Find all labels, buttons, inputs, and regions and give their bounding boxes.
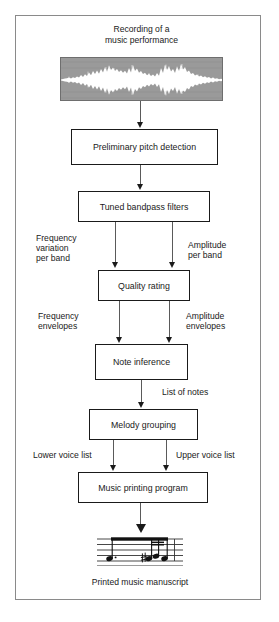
box-music-printing-program[interactable]: Music printing program [78, 472, 208, 503]
box-tuned-bandpass-filters[interactable]: Tuned bandpass filters [78, 191, 210, 222]
edge-label-upper-voice-list: Upper voice list [176, 450, 261, 461]
edge-label-frequency-envelopes-line1: Frequency [38, 311, 118, 322]
box-label-music-printing-program: Music printing program [98, 483, 187, 493]
music-manuscript-excerpt [95, 536, 185, 569]
connector-note-inference-to-melody [141, 380, 142, 403]
recording-caption-line1: Recording of a [60, 24, 223, 35]
arrowhead-quality-to-note-right [166, 337, 172, 343]
connector-melody-to-printing-left [113, 440, 114, 466]
box-melody-grouping[interactable]: Melody grouping [89, 409, 198, 440]
arrowhead-note-inference-to-melody [138, 402, 144, 408]
box-label-preliminary-pitch-detection: Preliminary pitch detection [93, 142, 196, 152]
figure-frame [15, 15, 261, 600]
waveform-svg [61, 58, 223, 101]
arrowhead-melody-to-printing-left [110, 465, 116, 471]
connector-bandpass-to-quality-right [172, 222, 173, 263]
music-staff-svg [95, 536, 185, 569]
recording-caption-line2: music performance [60, 35, 223, 46]
arrowhead-waveform-to-pitch-detection [137, 122, 143, 128]
box-label-note-inference: Note inference [113, 357, 170, 367]
edge-label-amplitude-envelopes-line2: envelopes [186, 321, 266, 332]
figure-canvas: Recording of a music performance [0, 0, 279, 622]
manuscript-caption: Printed music manuscript [50, 577, 230, 588]
arrowhead-melody-to-printing-right [163, 465, 169, 471]
waveform-image [60, 57, 223, 101]
arrowhead-bandpass-to-quality-right [169, 262, 175, 268]
box-note-inference[interactable]: Note inference [95, 344, 188, 380]
edge-label-frequency-variation-line1: Frequency [36, 233, 116, 244]
arrowhead-quality-to-note-left [116, 337, 122, 343]
edge-label-frequency-variation-line3: per band [36, 253, 116, 264]
edge-label-frequency-variation-line2: variation [36, 243, 116, 254]
box-quality-rating[interactable]: Quality rating [98, 270, 190, 301]
edge-label-frequency-envelopes-line2: envelopes [38, 321, 118, 332]
box-label-quality-rating: Quality rating [118, 281, 170, 291]
arrowhead-pitch-detection-to-bandpass [137, 184, 143, 190]
connector-quality-to-note-right [169, 301, 170, 338]
edge-label-amplitude-envelopes-line1: Amplitude [186, 311, 266, 322]
connector-pitch-detection-to-bandpass [140, 165, 141, 185]
connector-waveform-to-pitch-detection [140, 101, 141, 123]
connector-quality-to-note-left [119, 301, 120, 338]
box-label-tuned-bandpass-filters: Tuned bandpass filters [100, 202, 189, 212]
arrowhead-printing-to-manuscript [136, 524, 146, 533]
box-preliminary-pitch-detection[interactable]: Preliminary pitch detection [71, 129, 218, 165]
edge-label-amplitude-per-band-line2: per band [188, 250, 268, 261]
box-label-melody-grouping: Melody grouping [111, 420, 176, 430]
edge-label-list-of-notes: List of notes [162, 387, 252, 398]
connector-melody-to-printing-right [166, 440, 167, 466]
edge-label-amplitude-per-band-line1: Amplitude [188, 240, 268, 251]
edge-label-lower-voice-list: Lower voice list [33, 450, 113, 461]
